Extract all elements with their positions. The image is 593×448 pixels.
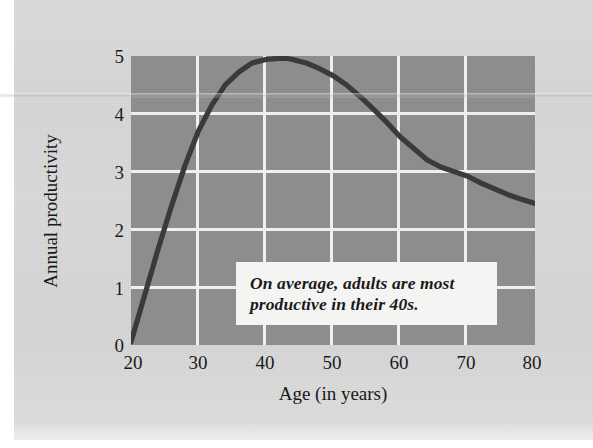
x-tick-50: 50 [312,352,352,374]
y-tick-2: 2 [102,221,124,240]
x-tick-80: 80 [512,352,552,374]
x-tick-30: 30 [178,352,218,374]
y-tick-3: 3 [102,163,124,182]
annotation-line-2: productive in their 40s. [250,294,497,315]
x-tick-40: 40 [245,352,285,374]
x-tick-60: 60 [379,352,419,374]
y-axis-label: Annual productivity [40,111,62,311]
y-axis-ticks: 5 4 3 2 1 0 [90,0,124,448]
x-axis-label: Age (in years) [131,383,535,405]
y-tick-5: 5 [102,47,124,66]
x-tick-20: 20 [113,352,153,374]
y-tick-4: 4 [102,105,124,124]
annotation-line-1: On average, adults are most [250,273,497,294]
x-tick-70: 70 [446,352,486,374]
figure-page: On average, adults are most productive i… [0,0,593,448]
y-tick-1: 1 [102,279,124,298]
annotation-callout: On average, adults are most productive i… [236,262,497,325]
